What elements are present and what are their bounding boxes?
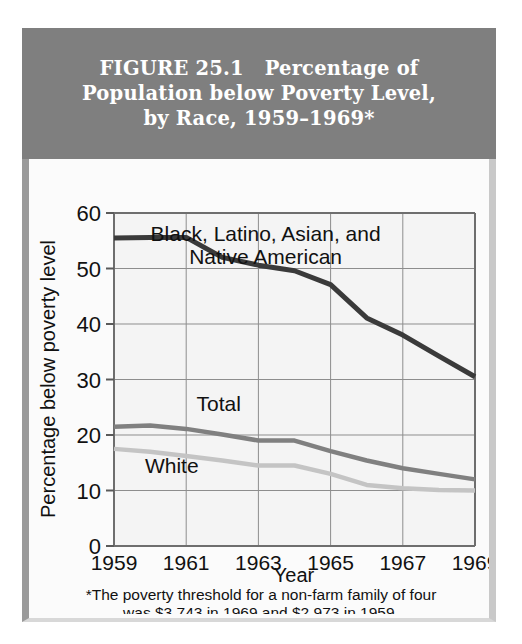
x-tick-label-1961: 1961 (163, 551, 210, 574)
figure-title-line-2: Population below Poverty Level, (82, 81, 436, 106)
footnote-line-2: was $3,743 in 1969 and $2,973 in 1959. (122, 604, 399, 614)
annotation-1-line-0: Total (197, 392, 241, 415)
figure-title-band: FIGURE 25.1 Percentage of Population bel… (22, 28, 496, 159)
poverty-line-chart: 0102030405060 195919611963196519671969 B… (29, 159, 489, 614)
x-tick-label-1967: 1967 (379, 551, 426, 574)
y-tick-label-30: 30 (77, 368, 101, 393)
figure-container: FIGURE 25.1 Percentage of Population bel… (22, 28, 496, 622)
figure-title-line-3: by Race, 1959–1969* (143, 106, 374, 131)
y-tick-label-40: 40 (77, 312, 101, 337)
x-tick-label-1959: 1959 (91, 551, 138, 574)
y-axis-tickmarks (106, 213, 114, 546)
y-tick-label-10: 10 (77, 479, 101, 504)
annotation-0-line-1: Native American (189, 245, 342, 268)
annotation-0-line-0: Black, Latino, Asian, and (151, 222, 381, 245)
x-axis-title: Year (274, 564, 315, 586)
x-tick-label-1965: 1965 (307, 551, 354, 574)
footnote-line-1: *The poverty threshold for a non-farm fa… (86, 586, 437, 603)
y-tick-label-20: 20 (77, 423, 101, 448)
y-axis-tick-labels: 0102030405060 (77, 201, 101, 559)
x-tick-label-1969: 1969 (452, 551, 489, 574)
y-tick-label-50: 50 (77, 257, 101, 282)
figure-title-line-1: FIGURE 25.1 Percentage of (100, 56, 419, 81)
y-tick-label-60: 60 (77, 201, 101, 226)
chart-panel: 0102030405060 195919611963196519671969 B… (22, 159, 496, 622)
plot-wrapper: 0102030405060 195919611963196519671969 B… (29, 159, 489, 614)
annotation-2-line-0: White (145, 454, 199, 477)
y-axis-title: Percentage below poverty level (37, 240, 59, 518)
